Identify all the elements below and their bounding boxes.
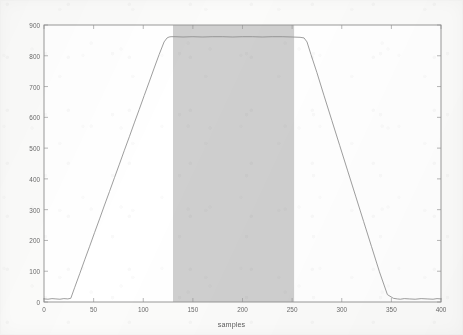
shaded-region-flat xyxy=(173,25,294,302)
figure-page: Stimulus profile (degrees/second) sample… xyxy=(0,0,463,335)
plot-canvas xyxy=(0,0,463,335)
chart-figure: Stimulus profile (degrees/second) sample… xyxy=(0,0,463,335)
